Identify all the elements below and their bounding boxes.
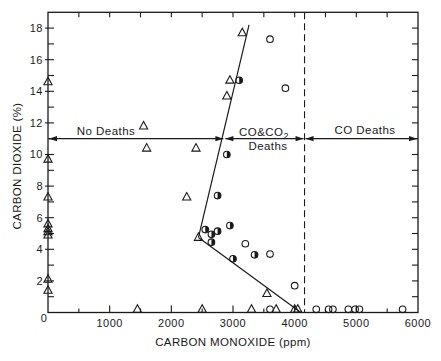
y-tick-label: 2 xyxy=(36,275,43,287)
x-tick-label: 2000 xyxy=(158,317,184,329)
y-tick-label: 18 xyxy=(30,22,43,34)
region-label-no-deaths: No Deaths xyxy=(77,125,135,137)
region-label-co-deaths: CO Deaths xyxy=(335,124,396,136)
y-tick-label: 8 xyxy=(36,180,43,192)
y-tick-label: 10 xyxy=(30,148,43,160)
y-tick-label: 12 xyxy=(30,117,43,129)
origin-tick-label: 0 xyxy=(41,312,48,324)
x-tick-label: 3000 xyxy=(220,317,246,329)
x-tick-label: 5000 xyxy=(343,317,369,329)
x-tick-label: 1000 xyxy=(96,317,122,329)
y-tick-label: 16 xyxy=(30,54,43,66)
y-tick-label: 14 xyxy=(30,85,43,97)
x-tick-label: 4000 xyxy=(281,317,307,329)
y-tick-label: 4 xyxy=(36,243,43,255)
region-label-co-co2-deaths-line2: Deaths xyxy=(248,140,287,152)
x-axis-title: CARBON MONOXIDE (ppm) xyxy=(155,336,311,348)
y-tick-label: 6 xyxy=(36,212,43,224)
co-co2-scatter-chart: 100020003000400050006000246810121416180 … xyxy=(0,0,441,361)
region-label-co-co2-main: CO&CO xyxy=(239,126,283,138)
x-tick-label: 6000 xyxy=(405,317,431,329)
y-axis-title: CARBON DIOXIDE (%) xyxy=(11,102,23,229)
chart-background xyxy=(0,0,441,361)
region-label-co2-subscript: 2 xyxy=(283,131,288,141)
